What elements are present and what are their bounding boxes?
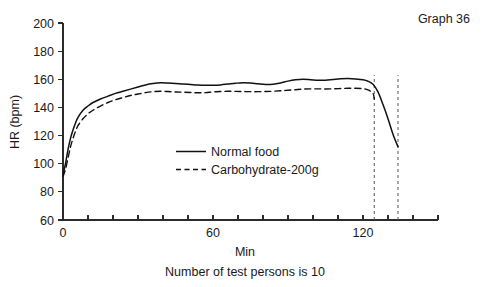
y-tick-label: 60 bbox=[40, 214, 54, 228]
y-tick-label: 80 bbox=[40, 185, 54, 199]
x-tick-label: 120 bbox=[353, 226, 374, 240]
series-line-normal-food bbox=[63, 79, 398, 175]
y-tick-label: 200 bbox=[33, 17, 54, 31]
graph-id-label: Graph 36 bbox=[418, 12, 470, 26]
x-axis-title: Min bbox=[235, 245, 255, 259]
figure-caption: Number of test persons is 10 bbox=[165, 265, 325, 279]
legend-label-2: Carbohydrate-200g bbox=[211, 163, 319, 177]
chart-figure: 6080100120140160180200060120 Normal food… bbox=[0, 0, 487, 287]
y-tick-label: 140 bbox=[33, 101, 54, 115]
x-tick-label: 60 bbox=[206, 226, 220, 240]
y-axis-title: HR (bpm) bbox=[8, 95, 22, 149]
y-tick-label: 180 bbox=[33, 45, 54, 59]
y-tick-label: 100 bbox=[33, 157, 54, 171]
y-tick-label: 120 bbox=[33, 129, 54, 143]
axes bbox=[58, 23, 438, 220]
chart-legend: Normal foodCarbohydrate-200g bbox=[176, 145, 319, 177]
legend-label-1: Normal food bbox=[211, 145, 279, 159]
axis-spines bbox=[63, 23, 438, 220]
end-marker-lines bbox=[374, 75, 398, 220]
heart-rate-line-chart: 6080100120140160180200060120 Normal food… bbox=[0, 0, 487, 287]
x-tick-label: 0 bbox=[60, 226, 67, 240]
y-tick-label: 160 bbox=[33, 73, 54, 87]
tick-labels: 6080100120140160180200060120 bbox=[33, 17, 373, 241]
